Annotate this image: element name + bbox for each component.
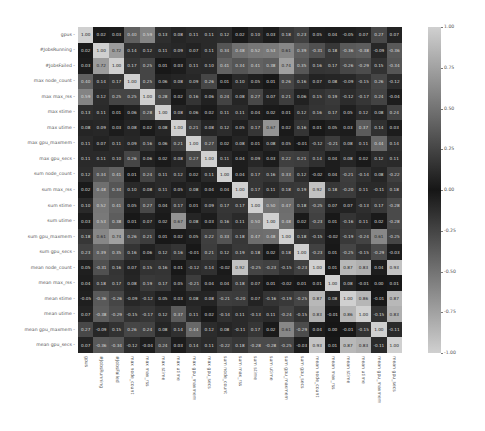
heatmap-cell: 0.08 (186, 291, 201, 307)
heatmap-cell: 0.18 (232, 229, 247, 245)
heatmap-cell: 1.00 (155, 105, 170, 121)
heatmap-cell: 0.01 (217, 74, 232, 90)
y-tick-label: max utime - (47, 125, 75, 130)
heatmap-cell: 0.12 (171, 167, 186, 183)
heatmap-cell: 0.03 (109, 120, 124, 136)
heatmap-cell: 0.11 (186, 27, 201, 43)
heatmap-cell: -0.29 (109, 306, 124, 322)
heatmap-cell: 1.00 (371, 322, 386, 338)
heatmap-cell: 0.26 (201, 74, 216, 90)
heatmap-cell: 0.12 (371, 151, 386, 167)
heatmap-cell: 0.23 (78, 244, 93, 260)
heatmap-cell: 0.05 (248, 74, 263, 90)
heatmap-cell: 0.02 (263, 244, 278, 260)
heatmap-cell: 0.05 (124, 198, 139, 214)
heatmap-cell: 0.11 (217, 105, 232, 121)
heatmap-cell: 1.00 (279, 229, 294, 245)
heatmap-cell: -0.31 (309, 43, 324, 59)
heatmap-cell: 0.27 (371, 27, 386, 43)
heatmap-cell: 0.08 (232, 89, 247, 105)
heatmap-cell: 0.50 (263, 198, 278, 214)
colorbar-tick-mark (441, 312, 443, 313)
heatmap-cell: 0.17 (124, 58, 139, 74)
heatmap-cell: 0.07 (356, 27, 371, 43)
heatmap-cell: 0.19 (325, 89, 340, 105)
heatmap-cell: 0.12 (78, 167, 93, 183)
heatmap-cell: -0.19 (340, 229, 355, 245)
heatmap-cell: -0.38 (93, 306, 108, 322)
heatmap-cell: 0.19 (232, 244, 247, 260)
heatmap-cell: 0.06 (140, 151, 155, 167)
heatmap-cell: -0.13 (356, 198, 371, 214)
heatmap-cell: 0.87 (309, 291, 324, 307)
heatmap-cell: -0.12 (140, 291, 155, 307)
heatmap-cell: 1.00 (340, 291, 355, 307)
heatmap-cell: -0.28 (387, 213, 402, 229)
heatmap-cell: 0.72 (109, 43, 124, 59)
heatmap-cell: 1.00 (124, 74, 139, 90)
heatmap-cell: 0.05 (171, 275, 186, 291)
colorbar-tick-label: 0.00 (444, 187, 454, 192)
heatmap-cell: 0.16 (140, 136, 155, 152)
heatmap-cell: 0.02 (201, 306, 216, 322)
heatmap-cell: 1.00 (325, 275, 340, 291)
x-tick-label: sum utime (269, 356, 274, 381)
heatmap-cell: -0.09 (93, 322, 108, 338)
heatmap-cell: 0.11 (201, 27, 216, 43)
heatmap-cell: 0.33 (279, 167, 294, 183)
heatmap-cell: 0.18 (93, 275, 108, 291)
heatmap-cell: 0.23 (294, 27, 309, 43)
y-tick-label: sum stime - (48, 203, 75, 208)
heatmap-cell: -0.22 (387, 167, 402, 183)
y-tick-label: gpus - (61, 32, 75, 37)
heatmap-cell: 0.02 (155, 151, 170, 167)
heatmap-cell: 0.01 (186, 198, 201, 214)
heatmap-cell: -0.12 (309, 136, 324, 152)
heatmap-cell: 1.00 (263, 213, 278, 229)
heatmap-cell: -0.20 (340, 182, 355, 198)
heatmap-cell: 0.34 (217, 43, 232, 59)
heatmap-cell: 0.07 (93, 136, 108, 152)
heatmap-cell: 0.11 (93, 151, 108, 167)
heatmap-cell: 0.22 (279, 151, 294, 167)
heatmap-cell: 0.12 (155, 306, 170, 322)
heatmap-cell: 0.01 (279, 105, 294, 121)
heatmap-cell: 0.59 (140, 27, 155, 43)
colorbar (428, 27, 441, 353)
heatmap-cell: 0.21 (201, 244, 216, 260)
heatmap-cell: 0.02 (93, 27, 108, 43)
heatmap-cell: 0.08 (155, 120, 170, 136)
heatmap-cell: 0.24 (371, 89, 386, 105)
x-tick-label: sum stime (253, 356, 258, 380)
heatmap-cell: 0.35 (294, 58, 309, 74)
heatmap-cell: 1.00 (356, 306, 371, 322)
heatmap-cell: -0.04 (140, 337, 155, 353)
heatmap-cell: 0.17 (248, 120, 263, 136)
heatmap-cell: 0.02 (294, 213, 309, 229)
heatmap-cell: 0.09 (93, 120, 108, 136)
heatmap-cell: 0.05 (340, 105, 355, 121)
heatmap-cell: 0.15 (309, 89, 324, 105)
heatmap-cell: 0.21 (279, 89, 294, 105)
heatmap-cell: -0.15 (294, 306, 309, 322)
x-tick-label: mean max_rss (331, 356, 336, 389)
heatmap-cell: -0.09 (340, 74, 355, 90)
x-tick-label: max max_rss (145, 356, 150, 386)
y-tick-label: max stime - (48, 109, 75, 114)
x-tick-label: gpus (84, 356, 89, 367)
heatmap-cell: 0.05 (78, 260, 93, 276)
heatmap-cell: -0.01 (371, 291, 386, 307)
heatmap-cell: 0.06 (294, 89, 309, 105)
y-tick-label: sum utime - (47, 218, 75, 223)
heatmap-cell: 0.01 (309, 275, 324, 291)
heatmap-cell: 0.27 (248, 89, 263, 105)
heatmap-cell: 0.11 (186, 58, 201, 74)
heatmap-cell: 0.11 (201, 167, 216, 183)
heatmap-cell: 0.21 (186, 120, 201, 136)
heatmap-cell: 0.09 (186, 74, 201, 90)
heatmap-cell: 0.38 (263, 58, 278, 74)
heatmap-cell: -0.29 (356, 58, 371, 74)
heatmap-cell: 0.17 (248, 182, 263, 198)
heatmap-cell: -0.04 (387, 89, 402, 105)
heatmap-cell: 0.61 (371, 229, 386, 245)
